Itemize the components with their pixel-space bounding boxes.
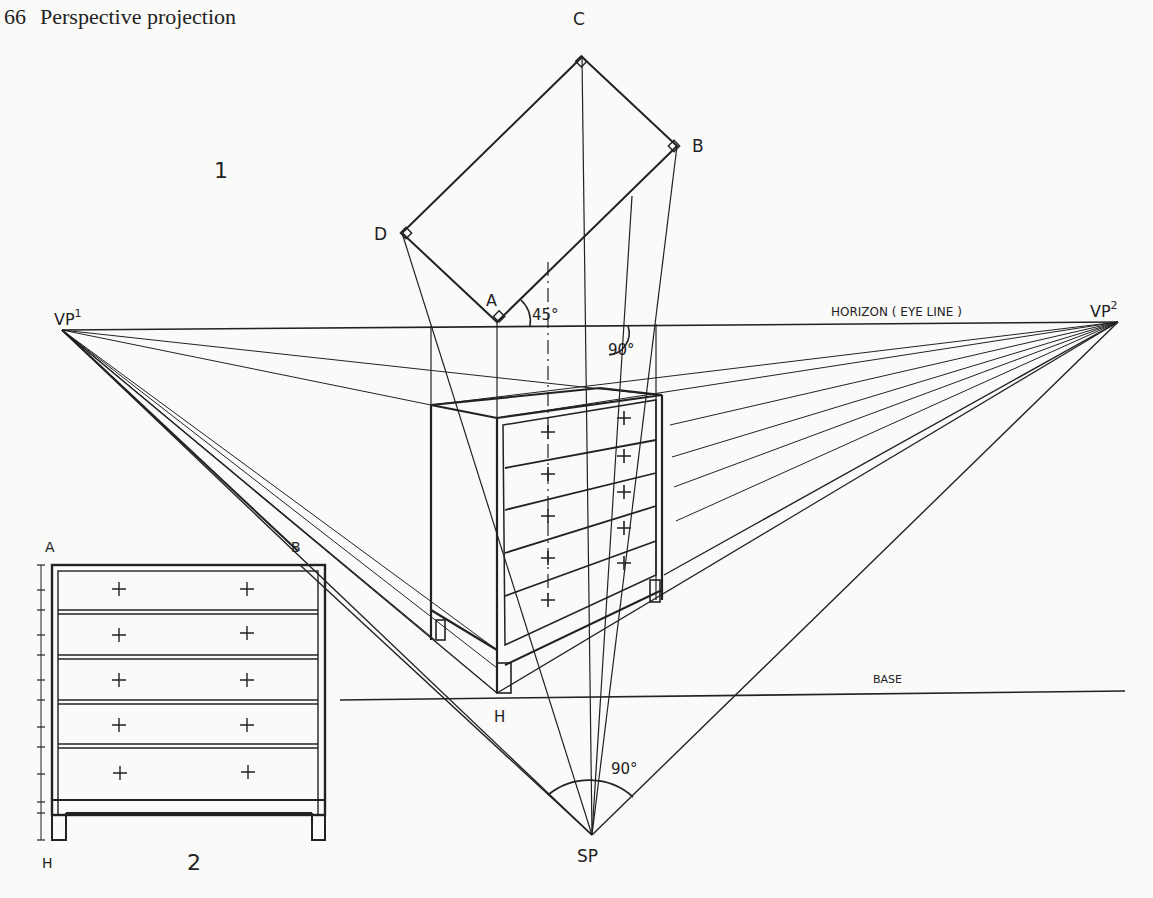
label-D: D: [374, 224, 387, 244]
vp2-lines: [431, 322, 1118, 835]
vp1-lines: [62, 330, 656, 835]
label-A: A: [486, 291, 497, 310]
view-1-label: 1: [214, 158, 228, 183]
perspective-diagram: C B D A 1 45° 90° VP1 VP2 HORIZON ( EYE …: [0, 0, 1153, 898]
horizon-line: [62, 322, 1118, 330]
station-point-label: SP: [577, 846, 598, 866]
angle-90-horizon-label: 90°: [608, 341, 635, 359]
angle-90-sp-label: 90°: [611, 760, 638, 778]
height-point-label: H: [494, 708, 505, 726]
label-C: C: [573, 9, 585, 29]
elevation-label-H: H: [42, 855, 53, 871]
label-B: B: [692, 136, 704, 156]
view-2-label: 2: [187, 850, 201, 875]
vp1-label: VP1: [54, 307, 82, 329]
plan-projectors: [402, 57, 677, 835]
horizon-label: HORIZON ( EYE LINE ): [831, 305, 962, 319]
elevation-label-B: B: [291, 539, 301, 555]
elevation-label-A: A: [45, 539, 55, 555]
vp2-label: VP2: [1090, 299, 1118, 321]
base-label: BASE: [873, 673, 902, 686]
plan-view: [400, 56, 679, 322]
angle-45-label: 45°: [532, 306, 559, 324]
elevation-view: [37, 565, 325, 840]
